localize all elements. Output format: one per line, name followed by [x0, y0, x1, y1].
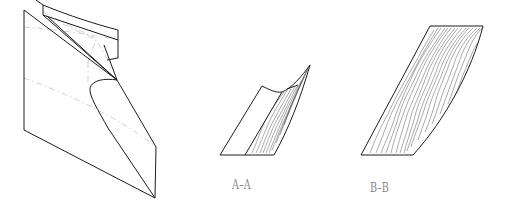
wood-grain-hatching-b [370, 28, 482, 153]
technical-drawing [0, 0, 518, 206]
section-b-b-label: B–B [370, 181, 389, 195]
perspective-view [24, 0, 156, 198]
section-a-a-label: A–A [232, 178, 251, 192]
section-b-b [361, 26, 483, 155]
section-a-a [220, 65, 310, 155]
wood-grain-hatching-a [252, 67, 309, 153]
